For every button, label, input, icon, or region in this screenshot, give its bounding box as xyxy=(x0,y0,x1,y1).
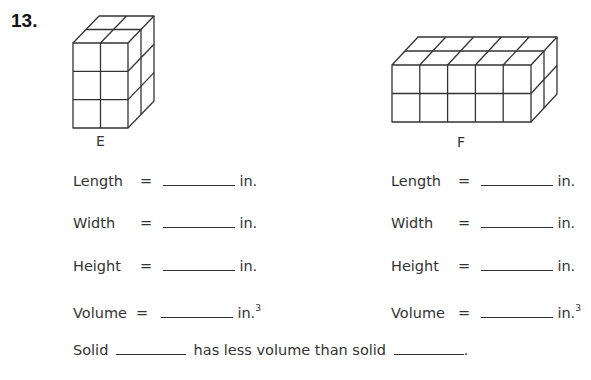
solid-f-height-row: Height= in. xyxy=(391,256,575,276)
solid-e-height-blank[interactable] xyxy=(163,258,235,271)
width-label: Width xyxy=(73,213,140,233)
solid-f-height-blank[interactable] xyxy=(481,258,553,271)
solid-e-height-row: Height= in. xyxy=(73,256,257,276)
unit-label: in. xyxy=(557,258,575,274)
length-label: Length xyxy=(73,171,140,191)
comparison-text-2: has less volume than solid xyxy=(194,342,386,358)
cubed-superscript: 3 xyxy=(255,303,261,313)
equals-sign: = xyxy=(458,305,470,321)
solid-f-length-blank[interactable] xyxy=(481,173,553,186)
solid-e-label: E xyxy=(96,133,105,149)
solid-f-width-row: Width= in. xyxy=(391,213,575,233)
height-label: Height xyxy=(73,256,140,276)
solid-f-label: F xyxy=(457,134,465,150)
solid-e-volume-row: Volume= in.3 xyxy=(73,298,261,318)
comparison-blank-1[interactable] xyxy=(116,342,186,355)
solid-e-volume-blank[interactable] xyxy=(161,305,233,318)
comparison-text-1: Solid xyxy=(73,342,108,358)
unit-label: in. xyxy=(239,258,257,274)
comparison-blank-2[interactable] xyxy=(394,342,464,355)
width-label: Width xyxy=(391,213,458,233)
equals-sign: = xyxy=(458,215,470,231)
solid-e-width-row: Width= in. xyxy=(73,213,257,233)
height-label: Height xyxy=(391,256,458,276)
length-label: Length xyxy=(391,171,458,191)
volume-label: Volume xyxy=(391,303,458,323)
solid-f-volume-blank[interactable] xyxy=(481,305,553,318)
solid-f-volume-row: Volume= in.3 xyxy=(391,298,581,318)
equals-sign: = xyxy=(458,173,470,189)
unit-label: in. xyxy=(557,305,575,321)
unit-label: in. xyxy=(557,173,575,189)
equals-sign: = xyxy=(140,173,152,189)
equals-sign: = xyxy=(136,305,148,321)
equals-sign: = xyxy=(140,215,152,231)
solid-f-length-row: Length= in. xyxy=(391,171,575,191)
solid-f-width-blank[interactable] xyxy=(481,215,553,228)
solid-e-length-blank[interactable] xyxy=(163,173,235,186)
cubed-superscript: 3 xyxy=(575,303,581,313)
unit-label: in. xyxy=(557,215,575,231)
equals-sign: = xyxy=(458,258,470,274)
solid-e-width-blank[interactable] xyxy=(163,215,235,228)
unit-label: in. xyxy=(239,173,257,189)
equals-sign: = xyxy=(140,258,152,274)
unit-label: in. xyxy=(239,215,257,231)
comparison-period: . xyxy=(464,342,469,358)
unit-label: in. xyxy=(237,305,255,321)
solid-e-length-row: Length= in. xyxy=(73,171,257,191)
comparison-sentence: Solid has less volume than solid . xyxy=(73,340,468,360)
volume-label: Volume xyxy=(73,303,136,323)
